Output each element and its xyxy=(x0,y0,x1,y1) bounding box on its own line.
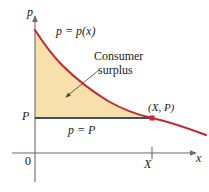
equilibrium-point-label: (X, P) xyxy=(148,102,174,113)
x-axis-label: x xyxy=(196,152,201,164)
y-axis-label: p xyxy=(27,6,33,18)
equilibrium-point xyxy=(150,116,155,121)
y-tick-label: P xyxy=(22,110,29,122)
price-line-label: p = P xyxy=(68,124,95,136)
origin-label: 0 xyxy=(25,155,31,167)
demand-curve-label: p = p(x) xyxy=(56,25,95,37)
x-tick-label: X xyxy=(144,158,151,170)
plot-canvas xyxy=(0,0,209,192)
annotation-line-1: Consumer xyxy=(94,49,143,63)
consumer-surplus-annotation: Consumer surplus xyxy=(94,49,143,77)
consumer-surplus-figure: p x 0 X P p = p(x) p = P (X, P) Consumer… xyxy=(0,0,209,192)
annotation-line-2: surplus xyxy=(94,63,143,77)
